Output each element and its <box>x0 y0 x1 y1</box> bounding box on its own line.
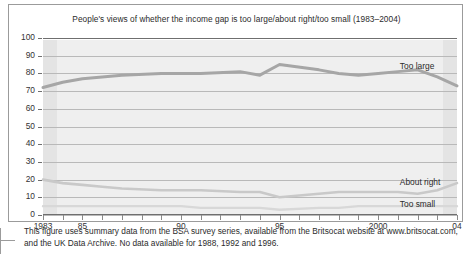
figure-page: People's views of whether the income gap… <box>0 0 472 257</box>
x-axis-line <box>43 214 457 215</box>
series-label-about-right: About right <box>400 177 441 187</box>
y-tick-label-10: 10 <box>9 192 35 200</box>
plot-area <box>43 38 457 215</box>
x-tick-1984 <box>63 215 64 220</box>
figure-note: This figure uses summary data from the B… <box>24 226 464 249</box>
x-tick-1995 <box>280 215 281 220</box>
series-line-too-large <box>43 65 457 88</box>
y-tick-label-90: 90 <box>9 51 35 59</box>
y-tick-10 <box>38 197 42 198</box>
x-tick-2000 <box>378 215 379 220</box>
x-tick-1987 <box>122 215 123 220</box>
y-tick-label-100: 100 <box>9 33 35 41</box>
y-tick-label-80: 80 <box>9 68 35 76</box>
figure-frame: People's views of whether the income gap… <box>8 4 463 222</box>
x-tick-1988 <box>142 215 143 220</box>
x-tick-2004 <box>457 215 458 220</box>
x-tick-1998 <box>339 215 340 220</box>
series-label-too-large: Too large <box>400 61 434 71</box>
y-tick-30 <box>38 162 42 163</box>
chart-title: People's views of whether the income gap… <box>9 14 464 24</box>
y-tick-label-30: 30 <box>9 157 35 165</box>
series-label-too-small: Too small <box>400 199 435 209</box>
y-tick-20 <box>38 180 42 181</box>
y-tick-label-50: 50 <box>9 122 35 130</box>
y-tick-80 <box>38 73 42 74</box>
y-tick-50 <box>38 127 42 128</box>
x-tick-1983 <box>43 215 44 220</box>
series-lines <box>43 38 457 215</box>
y-tick-60 <box>38 109 42 110</box>
x-tick-1985 <box>82 215 83 220</box>
y-tick-70 <box>38 91 42 92</box>
y-tick-100 <box>38 38 42 39</box>
x-tick-1997 <box>319 215 320 220</box>
note-bracket-icon <box>0 228 15 254</box>
x-tick-2001 <box>398 215 399 220</box>
y-tick-label-60: 60 <box>9 104 35 112</box>
x-tick-1993 <box>240 215 241 220</box>
x-tick-1994 <box>260 215 261 220</box>
y-tick-label-70: 70 <box>9 86 35 94</box>
series-line-about-right <box>43 180 457 198</box>
y-tick-0 <box>38 215 42 216</box>
x-tick-1991 <box>201 215 202 220</box>
series-line-too-small <box>43 206 457 210</box>
x-tick-1999 <box>358 215 359 220</box>
y-tick-40 <box>38 144 42 145</box>
x-tick-1986 <box>102 215 103 220</box>
x-tick-1990 <box>181 215 182 220</box>
x-tick-2002 <box>418 215 419 220</box>
y-tick-label-40: 40 <box>9 139 35 147</box>
x-tick-1996 <box>299 215 300 220</box>
x-tick-1989 <box>161 215 162 220</box>
x-tick-1992 <box>220 215 221 220</box>
y-tick-label-0: 0 <box>9 210 35 218</box>
gridline-0 <box>43 215 457 216</box>
x-tick-2003 <box>437 215 438 220</box>
y-tick-90 <box>38 56 42 57</box>
y-tick-label-20: 20 <box>9 175 35 183</box>
